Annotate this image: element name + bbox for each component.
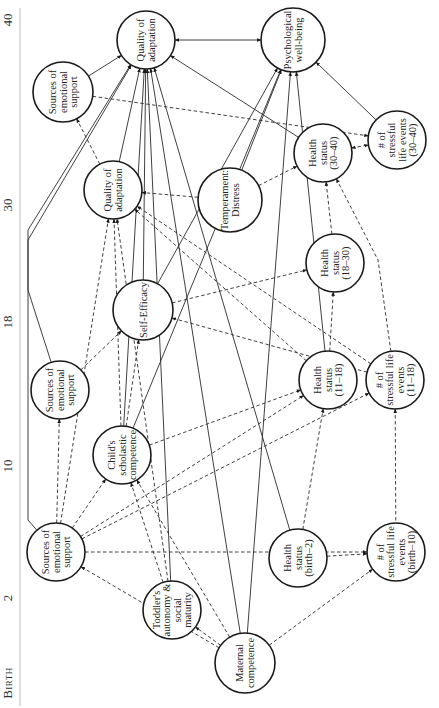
node-tod: Toddler'sautonomy &socialmaturity xyxy=(143,581,201,639)
node-hs1830: Healthstatus(18–30) xyxy=(306,234,364,292)
axis-ticks: 403018102Birth xyxy=(0,14,15,699)
node-label-line: # of xyxy=(374,371,385,388)
node-label-line: emotional xyxy=(55,369,66,411)
node-label-line: status xyxy=(330,251,341,275)
node-label: Maternalcompetence xyxy=(234,638,256,688)
edge-hs3040-to-sle3040 xyxy=(352,145,369,148)
edge-hs1830-to-hs3040 xyxy=(326,182,332,234)
node-label-line: social xyxy=(172,598,183,623)
axis-tick-label: 40 xyxy=(0,14,15,27)
node-label: Quality ofadaptation xyxy=(135,17,157,61)
node-label-line: # of xyxy=(376,131,387,148)
node-label-line: support xyxy=(65,374,76,406)
edge-ses2-to-ses18 xyxy=(57,419,60,523)
node-label-line: (30–40) xyxy=(328,136,340,170)
node-label-line: Toddler's xyxy=(151,591,162,629)
node-label-line: stressful life xyxy=(384,354,395,406)
node-sle1118: # ofstressful lifeevents(11–18) xyxy=(366,351,424,409)
node-qa30: Quality ofadaptation xyxy=(84,161,142,219)
node-mc: Maternalcompetence xyxy=(215,633,275,693)
node-label-line: (30–40) xyxy=(407,123,419,157)
node-label-line: adaptation xyxy=(146,17,157,61)
edge-hs1118-to-hs1830 xyxy=(330,292,334,351)
edge-csc-to-hs1118 xyxy=(149,390,300,445)
node-label-line: Health xyxy=(282,543,293,572)
edge-ses18-to-se xyxy=(81,331,122,370)
node-qa40: Quality ofadaptation xyxy=(117,11,175,69)
node-label-line: scholastic xyxy=(117,434,128,476)
node-label-line: Health xyxy=(312,365,323,394)
node-hs3040: Healthstatus(30–40) xyxy=(294,124,352,182)
node-label-line: life events xyxy=(397,118,408,161)
edge-hs1118-to-pwb xyxy=(296,72,325,351)
axis-tick-label: 30 xyxy=(0,199,15,212)
node-label-line: competence xyxy=(127,430,138,480)
node-temp: Temperament:Distress xyxy=(198,168,262,232)
node-csc: Child'sscholasticcompetence xyxy=(93,426,151,484)
node-se: Self-Efficacy xyxy=(113,280,173,340)
age-axis: 403018102Birth xyxy=(0,8,20,706)
node-label: Quality ofadaptation xyxy=(102,167,124,211)
edge-hsb2-to-hs1118 xyxy=(303,409,323,530)
node-label-line: (birth–2) xyxy=(303,539,315,577)
node-label-line: (18–30) xyxy=(340,246,352,280)
axis-tick-label: Birth xyxy=(0,667,15,699)
node-label: Psychologicalwell-being xyxy=(282,10,304,69)
node-label-line: Sources of xyxy=(47,69,58,114)
edge-qa30-to-qa40 xyxy=(119,68,140,161)
edge-temp-to-pwb xyxy=(242,70,282,170)
axis-tick-label: 10 xyxy=(0,460,15,473)
node-label-line: Psychological xyxy=(282,10,293,69)
node-label-line: Sources of xyxy=(44,367,55,412)
edge-sle1118-to-sleb10 xyxy=(395,409,396,523)
edge-sle3040-to-pwb xyxy=(316,62,376,120)
edge-hsb2-to-sleb10 xyxy=(327,554,367,556)
node-label-line: well-being xyxy=(293,17,304,63)
node-label-line: competence xyxy=(245,638,256,688)
node-hs1118: Healthstatus(11–18) xyxy=(299,351,357,409)
node-hsb2: Healthstatus(birth–2) xyxy=(269,529,327,587)
node-label-line: support xyxy=(61,536,72,568)
node-sleb10: # ofstressful lifeevents(birth–10) xyxy=(367,523,425,581)
node-label-line: maturity xyxy=(182,591,193,627)
edge-qa30-to-ses30 xyxy=(77,119,100,165)
node-label-line: emotional xyxy=(51,531,62,573)
node-ses18: Sources ofemotionalsupport xyxy=(31,361,89,419)
edge-tod-to-qa30 xyxy=(117,219,168,582)
node-label-line: Maternal xyxy=(234,644,245,682)
node-label-line: (birth–10) xyxy=(406,530,418,573)
node-label-line: stressful life xyxy=(385,526,396,578)
node-ses30: Sources ofemotionalsupport xyxy=(33,62,93,122)
node-sle3040: # ofstressfullife events(30–40) xyxy=(368,111,426,169)
node-label-line: events xyxy=(396,539,407,566)
node-label-line: (11–18) xyxy=(333,363,345,396)
node-label: Self-Efficacy xyxy=(138,281,149,338)
axis-tick-label: 2 xyxy=(0,595,15,602)
edge-temp-to-hs3040 xyxy=(259,166,298,186)
node-label-line: Child's xyxy=(106,440,117,469)
node-label-line: Quality of xyxy=(135,18,146,61)
node-label-line: events xyxy=(395,367,406,394)
developmental-path-diagram: 403018102Birth Quality ofadaptationPsych… xyxy=(0,0,439,708)
node-label-line: emotional xyxy=(58,71,69,113)
node-label-line: Quality of xyxy=(102,168,113,211)
node-label-line: Temperament: xyxy=(219,170,230,231)
node-ses2: Sources ofemotionalsupport xyxy=(27,523,85,581)
node-label-line: status xyxy=(318,141,329,165)
node-label-line: Health xyxy=(319,248,330,277)
edge-mc-to-qa40 xyxy=(151,69,241,634)
node-label-line: stressful xyxy=(386,122,397,157)
edge-se-to-qa40 xyxy=(143,69,145,280)
node-label-line: Sources of xyxy=(40,529,51,574)
node-label-line: (11–18) xyxy=(405,363,417,396)
node-label-line: Self-Efficacy xyxy=(138,281,149,338)
edge-ses30-to-qa40 xyxy=(88,55,121,76)
edge-ses2-to-csc xyxy=(72,479,105,528)
node-label-line: # of xyxy=(375,543,386,560)
node-label-line: support xyxy=(68,76,79,108)
node-label-line: autonomy & xyxy=(161,584,172,637)
node-label-line: adaptation xyxy=(113,167,124,211)
node-label-line: status xyxy=(323,368,334,392)
edge-hsb2-to-qa40 xyxy=(154,68,290,530)
node-label: Healthstatus(11–18) xyxy=(312,363,345,396)
